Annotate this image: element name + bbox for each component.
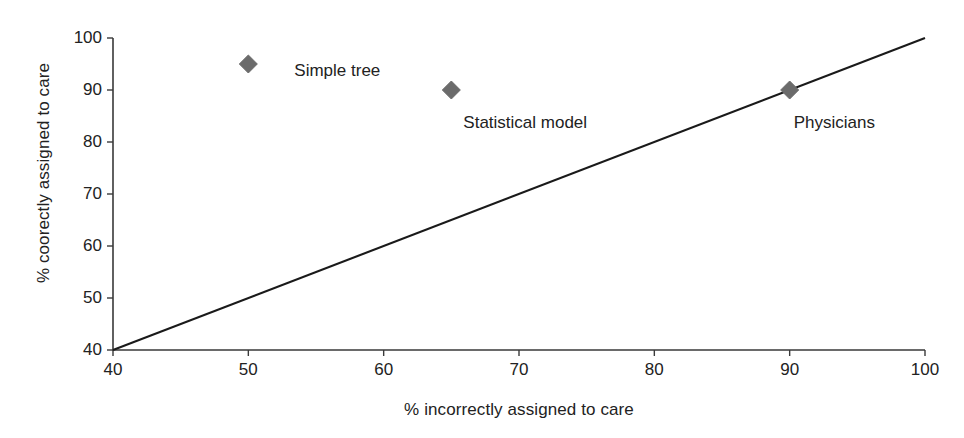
y-tick-label: 70: [56, 184, 102, 204]
y-tick-label: 50: [56, 288, 102, 308]
data-point-label: Simple tree: [294, 61, 380, 81]
y-tick-label: 90: [56, 80, 102, 100]
scatter-chart-figure: % coorectly assigned to care % incorrect…: [0, 0, 964, 438]
x-tick-label: 60: [374, 360, 393, 380]
y-tick-label: 60: [56, 236, 102, 256]
y-tick-label: 100: [56, 28, 102, 48]
x-tick-label: 70: [510, 360, 529, 380]
plot-area: Simple treeStatistical modelPhysicians: [113, 38, 925, 350]
diagonal-reference-line: [113, 38, 925, 350]
x-tick-label: 100: [911, 360, 939, 380]
x-tick-label: 40: [104, 360, 123, 380]
x-axis-title: % incorrectly assigned to care: [113, 400, 925, 420]
x-tick-label: 80: [645, 360, 664, 380]
y-tick-label: 80: [56, 132, 102, 152]
x-tick-label: 50: [239, 360, 258, 380]
data-point-label: Statistical model: [463, 113, 587, 133]
y-tick-label: 40: [56, 340, 102, 360]
data-point-label: Physicians: [794, 113, 875, 133]
plot-canvas: [113, 38, 925, 350]
y-axis-title: % coorectly assigned to care: [34, 0, 58, 348]
x-tick-label: 90: [780, 360, 799, 380]
